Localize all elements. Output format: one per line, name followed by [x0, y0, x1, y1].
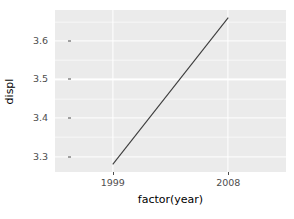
x-axis-title: factor(year): [55, 193, 286, 206]
chart-container: 3.33.43.53.6 19992008 displ factor(year): [0, 0, 294, 219]
x-tick-mark: [228, 172, 229, 175]
x-tick-label: 1999: [101, 177, 125, 188]
x-axis-ticks: 19992008: [0, 0, 294, 219]
x-tick-label: 2008: [216, 177, 240, 188]
x-tick-mark: [113, 172, 114, 175]
